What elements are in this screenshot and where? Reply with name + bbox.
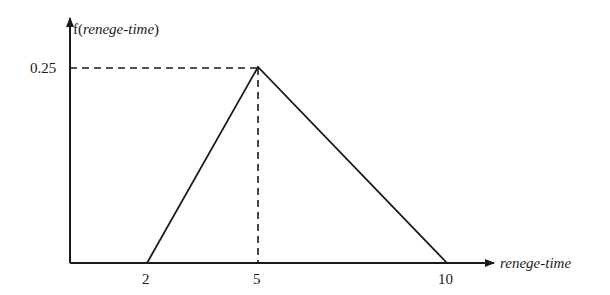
chart-canvas [0,0,610,295]
density-line [147,67,447,263]
x-axis-label: renege-time [500,256,571,271]
x-tick-10: 10 [438,272,453,287]
x-tick-5: 5 [253,272,261,287]
x-tick-2: 2 [142,272,150,287]
y-tick-0-25: 0.25 [30,61,56,76]
y-axis-label: f(renege-time) [73,22,159,37]
